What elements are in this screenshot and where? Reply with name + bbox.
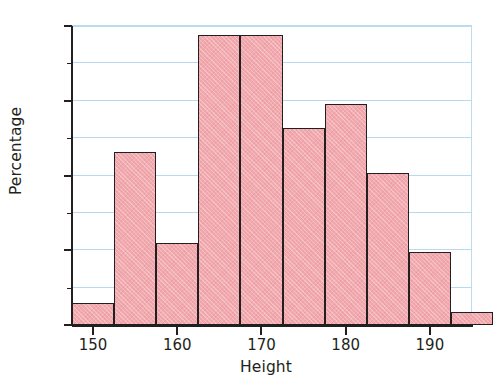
- x-tick-label: 160: [152, 338, 202, 353]
- x-tick-label: 150: [68, 338, 118, 353]
- y-tick: [64, 25, 72, 27]
- histogram-bar: [240, 35, 282, 325]
- x-tick-label: 170: [236, 338, 286, 353]
- y-tick: [64, 100, 72, 102]
- y-axis-title: Percentage: [7, 51, 25, 251]
- histogram-bar: [451, 312, 493, 325]
- x-tick: [345, 327, 347, 335]
- x-axis-line: [72, 325, 473, 327]
- y-tick: [64, 324, 72, 326]
- histogram-bar: [156, 243, 198, 325]
- histogram-bar: [283, 128, 325, 325]
- histogram-bar: [72, 303, 114, 325]
- y-tick-minor: [67, 138, 72, 139]
- histogram-bar: [114, 152, 156, 325]
- x-tick: [176, 327, 178, 335]
- y-tick-minor: [67, 63, 72, 64]
- histogram-bar: [198, 35, 240, 325]
- histogram-bar: [367, 173, 409, 325]
- gridline: [72, 25, 472, 26]
- x-tick: [429, 327, 431, 335]
- x-tick: [260, 327, 262, 335]
- y-tick: [64, 249, 72, 251]
- y-tick-minor: [67, 288, 72, 289]
- x-tick: [92, 327, 94, 335]
- x-tick-label: 190: [405, 338, 455, 353]
- x-tick-label: 180: [321, 338, 371, 353]
- plot-right-border: [471, 26, 472, 325]
- y-tick-minor: [67, 213, 72, 214]
- plot-top-border: [72, 26, 472, 27]
- y-tick: [64, 175, 72, 177]
- x-axis-title: Height: [60, 358, 472, 376]
- histogram-bar: [409, 252, 451, 325]
- plot-area: [72, 26, 472, 325]
- histogram-bar: [325, 104, 367, 325]
